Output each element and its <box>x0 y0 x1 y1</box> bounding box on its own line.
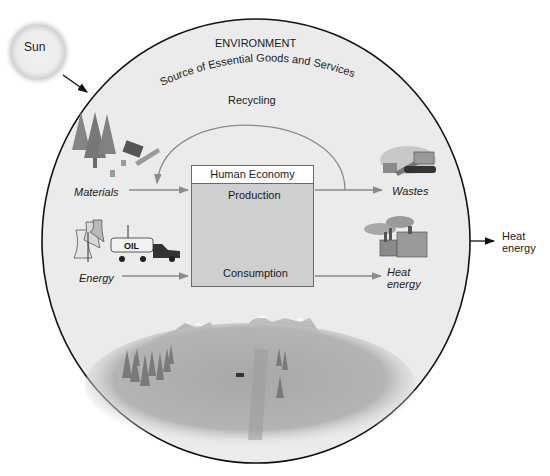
heat-energy-label-line2: energy <box>387 278 421 290</box>
svg-text:OIL: OIL <box>124 241 140 251</box>
human-economy-title: Human Economy <box>192 166 313 184</box>
sun-label: Sun <box>24 41 45 53</box>
environment-title: ENVIRONMENT <box>215 37 296 49</box>
heat-energy-label-line1: Heat <box>387 266 410 278</box>
materials-label: Materials <box>74 186 119 198</box>
sun-arrow <box>63 75 87 92</box>
recycling-label: Recycling <box>228 94 276 106</box>
human-economy-box: Human Economy Production Consumption <box>191 165 314 287</box>
outside-heat-label-line2: energy <box>502 242 536 254</box>
energy-label: Energy <box>79 272 114 284</box>
outside-heat-label-line1: Heat <box>502 230 525 242</box>
consumption-label: Consumption <box>223 267 288 279</box>
landfill-bulldozer-icon <box>380 146 436 176</box>
production-label: Production <box>228 189 281 201</box>
wastes-label: Wastes <box>392 185 428 197</box>
